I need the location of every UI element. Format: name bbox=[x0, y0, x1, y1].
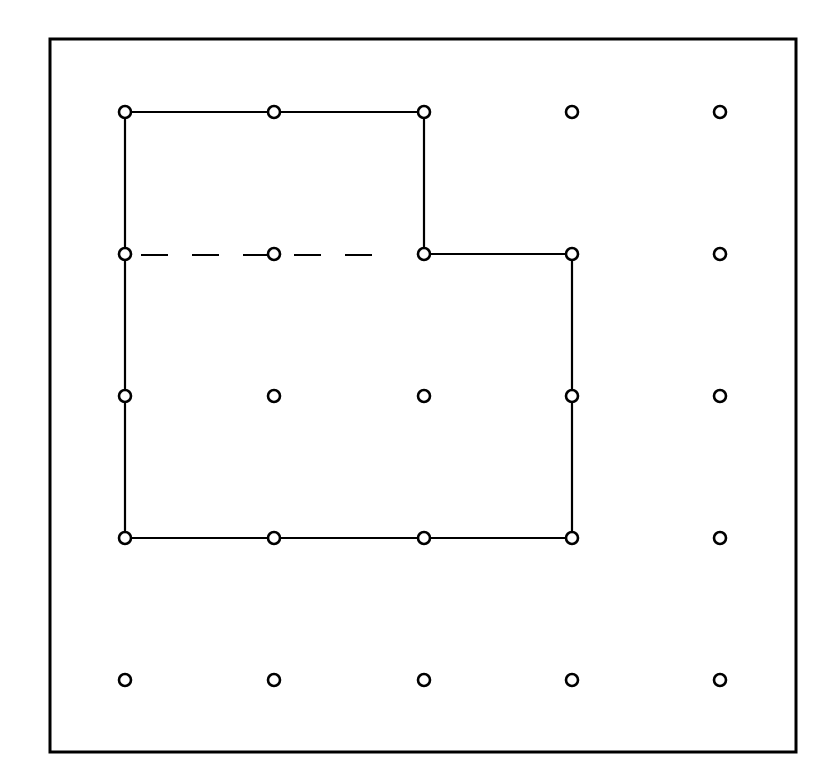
peg-4-1 bbox=[268, 674, 280, 686]
peg-grid bbox=[119, 106, 726, 686]
peg-1-2 bbox=[418, 248, 430, 260]
peg-0-1 bbox=[268, 106, 280, 118]
peg-1-4 bbox=[714, 248, 726, 260]
polygon-outline bbox=[125, 112, 572, 538]
peg-4-0 bbox=[119, 674, 131, 686]
peg-2-1 bbox=[268, 390, 280, 402]
peg-4-3 bbox=[566, 674, 578, 686]
peg-3-2 bbox=[418, 532, 430, 544]
peg-0-4 bbox=[714, 106, 726, 118]
peg-1-1 bbox=[268, 248, 280, 260]
geoboard-diagram bbox=[0, 0, 819, 783]
peg-3-0 bbox=[119, 532, 131, 544]
peg-4-2 bbox=[418, 674, 430, 686]
peg-1-0 bbox=[119, 248, 131, 260]
peg-4-4 bbox=[714, 674, 726, 686]
peg-2-0 bbox=[119, 390, 131, 402]
peg-3-1 bbox=[268, 532, 280, 544]
peg-3-4 bbox=[714, 532, 726, 544]
l-shaped-polygon bbox=[125, 112, 572, 538]
peg-3-3 bbox=[566, 532, 578, 544]
peg-1-3 bbox=[566, 248, 578, 260]
peg-0-3 bbox=[566, 106, 578, 118]
peg-0-2 bbox=[418, 106, 430, 118]
peg-2-2 bbox=[418, 390, 430, 402]
peg-2-4 bbox=[714, 390, 726, 402]
peg-2-3 bbox=[566, 390, 578, 402]
peg-0-0 bbox=[119, 106, 131, 118]
